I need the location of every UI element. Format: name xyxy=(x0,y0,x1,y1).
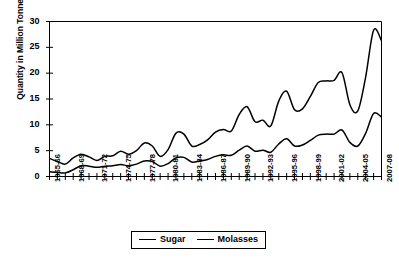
legend-item-molasses: Molasses xyxy=(197,234,259,245)
legend-label-molasses: Molasses xyxy=(218,234,259,245)
x-axis-tick-label: 1992-93 xyxy=(266,154,275,182)
legend-label-sugar: Sugar xyxy=(160,234,186,245)
chart-legend: Sugar Molasses xyxy=(131,231,266,249)
sugar-molasses-line-chart: Quantity in Million Tonnes 051015202530 … xyxy=(0,0,399,261)
y-axis-tick-label: 15 xyxy=(18,93,40,103)
data-series xyxy=(50,29,382,173)
x-axis-tick-label: 1980-81 xyxy=(171,154,180,182)
y-axis-tick-label: 20 xyxy=(18,67,40,77)
x-axis-tick-label: 1989-90 xyxy=(243,154,252,182)
plot-area xyxy=(0,0,399,261)
x-axis-tick-label: 1974-75 xyxy=(124,154,133,182)
y-axis-tick-label: 10 xyxy=(18,119,40,129)
y-axis-tick-label: 0 xyxy=(18,171,40,181)
x-axis-tick-label: 1977-78 xyxy=(148,154,157,182)
x-axis-tick-label: 1995-96 xyxy=(290,154,299,182)
x-axis-tick-label: 1998-99 xyxy=(314,154,323,182)
legend-line-icon-sugar xyxy=(139,239,156,240)
x-axis-tick-label: 2001-02 xyxy=(337,154,346,182)
y-axis-tick-label: 25 xyxy=(18,41,40,51)
x-axis-tick-label: 1986-87 xyxy=(219,154,228,182)
x-axis-tick-label: 2004-05 xyxy=(361,154,370,182)
series-line-sugar xyxy=(50,29,382,164)
x-axis-tick-label: 1983-84 xyxy=(195,154,204,182)
legend-line-icon-molasses xyxy=(197,239,214,240)
x-axis-tick-label: 1971-72 xyxy=(100,154,109,182)
x-axis-tick-label: 1968-69 xyxy=(77,154,86,182)
y-axis-tick-label: 5 xyxy=(18,145,40,155)
y-axis-tick-label: 30 xyxy=(18,16,40,26)
legend-item-sugar: Sugar xyxy=(139,234,186,245)
x-axis-tick-label: 1965-66 xyxy=(53,154,62,182)
x-axis-tick-label: 2007-08 xyxy=(385,154,394,182)
